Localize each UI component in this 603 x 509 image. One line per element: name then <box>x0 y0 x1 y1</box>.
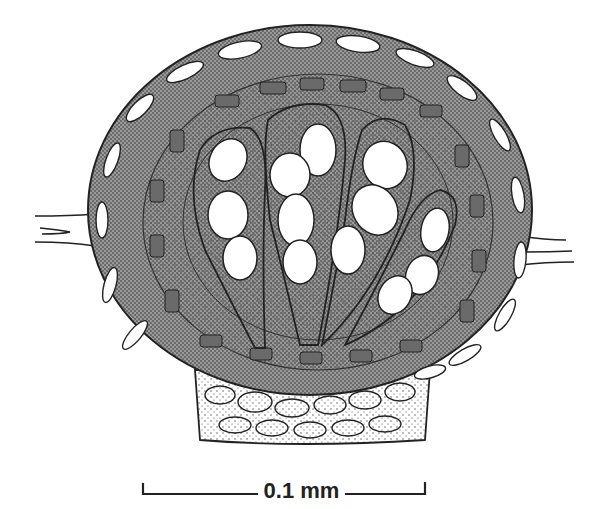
specimen-illustration <box>0 0 603 509</box>
scale-bar <box>143 482 425 494</box>
left-hyphae <box>35 214 95 246</box>
